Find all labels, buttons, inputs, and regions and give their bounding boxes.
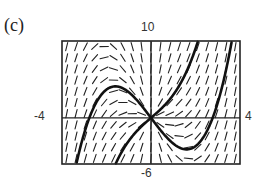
slope-segment <box>215 76 217 84</box>
slope-field-plot <box>0 0 260 187</box>
slope-segment <box>84 143 86 151</box>
slope-segment <box>185 122 192 127</box>
slope-segment <box>225 110 227 118</box>
slope-segment <box>206 54 208 62</box>
slope-segment <box>206 99 209 107</box>
slope-segment <box>225 121 227 129</box>
slope-segment <box>196 88 200 96</box>
slope-segment <box>102 121 106 128</box>
slope-segment <box>101 78 108 83</box>
slope-segment <box>234 110 236 118</box>
slope-segment <box>75 110 77 118</box>
slope-segment <box>138 112 146 115</box>
slope-segment <box>84 76 87 84</box>
slope-segment <box>187 43 190 51</box>
slope-segment <box>194 156 201 161</box>
slope-segment <box>120 122 127 127</box>
slope-segment <box>158 99 162 106</box>
slope-segment <box>84 99 87 107</box>
slope-segment <box>101 99 106 105</box>
slope-segment <box>141 54 142 62</box>
slope-segment <box>166 124 174 125</box>
slope-segment <box>131 43 133 51</box>
slope-segment <box>178 54 181 62</box>
slope-segment <box>206 65 209 73</box>
slope-segment <box>102 143 106 151</box>
slope-segment <box>216 54 218 62</box>
slope-segment <box>225 132 227 140</box>
slope-segment <box>176 99 182 105</box>
slope-segment <box>225 143 227 151</box>
slope-segment <box>66 43 68 51</box>
slope-segment <box>205 155 210 162</box>
slope-segment <box>166 112 174 116</box>
slope-segment <box>234 132 236 140</box>
slope-segment <box>195 121 200 128</box>
slope-segment <box>100 57 108 59</box>
slope-segment <box>83 43 87 50</box>
slope-segment <box>234 154 236 162</box>
slope-segment <box>103 155 106 163</box>
slope-segment <box>235 76 237 84</box>
slope-segment <box>175 124 183 126</box>
slope-segment <box>215 132 218 140</box>
slope-segment <box>66 110 68 118</box>
slope-segment <box>168 155 172 162</box>
slope-segment <box>84 110 87 118</box>
slope-segment <box>140 87 143 95</box>
slope-segment <box>100 67 108 71</box>
slope-segment <box>84 54 88 62</box>
slope-segment <box>109 90 117 92</box>
slope-segment <box>216 43 218 51</box>
slope-segment <box>187 76 191 84</box>
slope-segment <box>141 154 143 162</box>
slope-segment <box>75 54 78 62</box>
slope-segment <box>75 132 77 140</box>
slope-segment <box>206 87 209 95</box>
slope-segment <box>66 143 68 151</box>
slope-segment <box>121 54 125 61</box>
slope-segment <box>169 43 171 51</box>
slope-segment <box>75 121 77 129</box>
slope-segment <box>175 136 183 137</box>
slope-segment <box>186 88 190 95</box>
slope-segment <box>215 65 217 73</box>
slope-segment <box>205 144 209 151</box>
slope-segment <box>169 54 171 62</box>
slope-segment <box>110 56 117 60</box>
slope-segment <box>112 155 116 163</box>
slope-segment <box>177 65 180 73</box>
slope-segment <box>196 99 200 106</box>
slope-segment <box>131 155 134 163</box>
slope-segment <box>75 76 77 84</box>
slope-segment <box>195 133 201 139</box>
slope-segment <box>235 65 236 73</box>
slope-segment <box>110 111 116 117</box>
slope-segment <box>92 66 97 73</box>
slope-segment <box>196 65 199 73</box>
slope-segment <box>119 112 127 115</box>
slope-segment <box>93 143 96 151</box>
slope-segment <box>206 76 209 84</box>
slope-segment <box>186 99 191 106</box>
slope-segment <box>84 87 87 95</box>
slope-segment <box>225 98 227 106</box>
slope-segment <box>129 123 136 127</box>
slope-segment <box>235 98 237 106</box>
slope-segment <box>84 65 87 73</box>
slope-segment <box>140 132 144 140</box>
slope-segment <box>130 144 134 151</box>
slope-segment <box>110 100 117 104</box>
slope-segment <box>120 66 125 72</box>
slope-segment <box>92 77 97 84</box>
slope-segment <box>186 111 192 117</box>
slope-segment <box>110 68 118 71</box>
slope-segment <box>176 111 183 116</box>
slope-segment <box>66 54 68 62</box>
slope-segment <box>159 143 162 151</box>
slope-segment <box>120 133 125 139</box>
slope-segment <box>111 133 116 140</box>
slope-segment <box>168 88 172 95</box>
slope-segment <box>66 87 68 95</box>
solution-curve-2 <box>116 42 198 163</box>
